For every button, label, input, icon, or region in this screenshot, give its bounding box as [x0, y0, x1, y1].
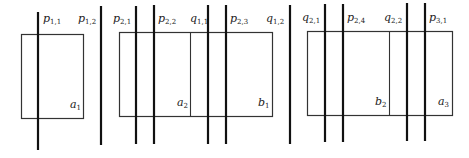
label-subscript: 2,1	[309, 17, 320, 25]
label-base: p	[429, 11, 436, 24]
label-subscript: 2	[382, 101, 386, 109]
label-subscript: 1,2	[273, 18, 284, 26]
line-label-q21: q2,1	[302, 12, 320, 25]
label-base: p	[113, 12, 120, 25]
label-subscript: 2,2	[391, 17, 402, 25]
label-subscript: 2	[184, 102, 188, 110]
label-base: p	[230, 12, 237, 25]
label-base: p	[78, 12, 85, 25]
label-subscript: 1,1	[50, 18, 61, 26]
label-base: p	[347, 11, 354, 24]
line-label-q12: q1,2	[266, 13, 284, 26]
label-base: p	[158, 12, 165, 25]
line-label-p23: p2,3	[230, 13, 248, 26]
label-subscript: 1,1	[197, 18, 208, 26]
label-base: q	[190, 12, 197, 25]
line-label-p21: p2,1	[113, 13, 131, 26]
line-label-p31: p3,1	[429, 12, 447, 25]
label-subscript: 2,2	[165, 18, 176, 26]
label-base: p	[43, 12, 50, 25]
label-base: q	[384, 11, 391, 24]
label-subscript: 1,2	[85, 18, 96, 26]
label-base: b	[375, 95, 382, 108]
region-label-a1: a1	[70, 99, 81, 112]
line-label-p12: p1,2	[78, 13, 96, 26]
line-label-q11: q1,1	[190, 13, 208, 26]
label-subscript: 2,3	[237, 18, 248, 26]
region-label-b1: b1	[258, 97, 270, 110]
line-label-p24: p2,4	[347, 12, 365, 25]
label-base: b	[258, 96, 265, 109]
line-label-q22: q2,2	[384, 12, 402, 25]
label-base: q	[266, 12, 273, 25]
label-subscript: 3	[445, 101, 449, 109]
line-label-p11: p1,1	[43, 13, 61, 26]
label-subscript: 3,1	[436, 17, 447, 25]
label-subscript: 2,4	[354, 17, 365, 25]
interval-diagram: p1,1p1,2p2,1p2,2q1,1p2,3q1,2q2,1p2,4q2,2…	[0, 0, 469, 158]
label-subscript: 1	[77, 104, 81, 112]
rect-2	[120, 33, 273, 117]
line-label-p22: p2,2	[158, 13, 176, 26]
label-base: q	[302, 11, 309, 24]
region-label-a2: a2	[177, 97, 188, 110]
label-subscript: 2,1	[120, 18, 131, 26]
region-label-a3: a3	[438, 96, 449, 109]
label-subscript: 1	[265, 102, 269, 110]
region-label-b2: b2	[375, 96, 387, 109]
